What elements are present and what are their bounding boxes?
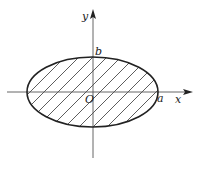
diagram-canvas: y x O a b [0, 0, 198, 174]
b-label: b [95, 45, 102, 58]
a-label: a [157, 92, 164, 105]
origin-label: O [85, 93, 94, 106]
y-axis-label: y [81, 10, 89, 23]
hatch-pattern [0, 50, 198, 150]
x-axis-label: x [175, 93, 182, 106]
ellipse-diagram: y x O a b [0, 0, 198, 174]
